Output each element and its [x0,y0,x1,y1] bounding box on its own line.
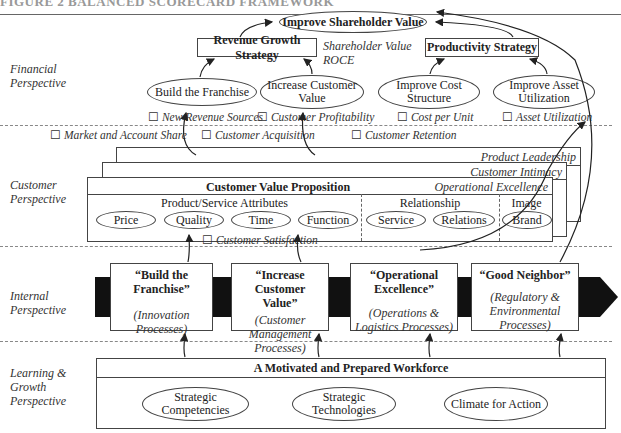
measure-shareholder-value: Shareholder Value [323,39,412,53]
measure-asset-utilization: ☐ Asset Utilization [502,110,592,124]
workforce-title: A Motivated and Prepared Workforce [97,361,605,376]
measure-market-share: ☐ Market and Account Share [50,128,187,142]
attr-time: Time [231,211,291,229]
financial-perspective-label: Financial Perspective [10,62,90,90]
attr-brand: Brand [502,211,552,229]
attr-relations: Relations [433,211,495,229]
process-operational-excellence: “Operational Excellence” (Operations & L… [350,263,458,331]
learning-perspective-label: Learning & Growth Perspective [10,366,80,408]
measure-customer-satisfaction: ☐ Customer Satisfaction [202,233,318,247]
build-franchise-node: Build the Franchise [147,78,257,106]
improve-asset-utilization-node: Improve Asset Utilization [493,75,595,109]
group-title-image: Image [499,196,554,211]
process-good-neighbor: “Good Neighbor” (Regulatory & Environmen… [471,263,579,331]
improve-cost-structure-node: Improve Cost Structure [378,75,480,109]
clipped-figure-title: FIGURE 2 BALANCED SCORECARD FRAMEWORK [0,0,621,6]
group-title-relationship: Relationship [361,196,499,211]
climate-for-action-node: Climate for Action [444,387,548,421]
attr-price: Price [96,211,156,229]
measure-cost-per-unit: ☐ Cost per Unit [397,110,474,124]
customer-perspective-label: Customer Perspective [10,178,90,206]
operational-excellence-label: Operational Excellence [434,180,548,195]
process-flow-arrowhead-icon [600,277,618,317]
strategic-technologies-node: Strategic Technologies [292,387,396,421]
increase-customer-value-node: Increase Customer Value [260,75,364,109]
measure-customer-acquisition: ☐ Customer Acquisition [201,128,315,142]
process-increase-customer-value: “Increase Customer Value” (Customer Mana… [231,263,329,331]
revenue-growth-strategy-box: Revenue Growth Strategy [197,38,317,57]
process-build-franchise: “Build the Franchise” (Innovation Proces… [110,263,213,331]
attr-function: Function [298,211,358,229]
improve-shareholder-value-node: Improve Shareholder Value [279,11,427,33]
measure-customer-profitability: ☐ Customer Profitability [257,110,374,124]
divider-financial-customer [0,125,612,126]
attr-quality: Quality [164,211,224,229]
measure-roce: ROCE [323,53,412,67]
group-title-product-service: Product/Service Attributes [88,196,361,211]
internal-perspective-label: Internal Perspective [10,289,90,317]
attr-service: Service [366,211,426,229]
productivity-strategy-box: Productivity Strategy [425,38,539,57]
customer-value-proposition-box: Customer Value Proposition Operational E… [87,177,553,242]
measure-customer-retention: ☐ Customer Retention [351,128,457,142]
value-prop-title: Customer Value Proposition [88,180,468,195]
shareholder-measures: Shareholder Value ROCE [323,39,412,67]
measure-new-revenue: ☐ New Revenue Sources [148,110,263,124]
strategic-competencies-node: Strategic Competencies [142,387,249,421]
